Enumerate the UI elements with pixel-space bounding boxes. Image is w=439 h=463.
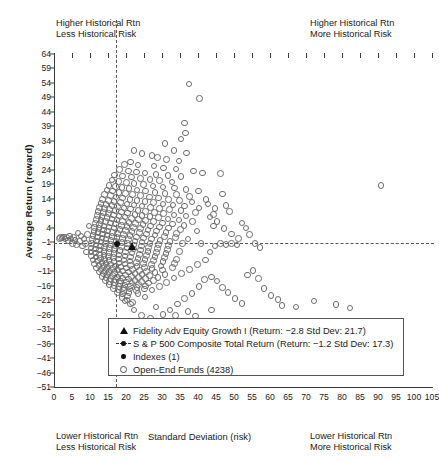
- y-axis-tick-label: −31: [36, 324, 51, 334]
- y-axis-tick-label: −16: [36, 281, 51, 291]
- fund-marker: [208, 307, 215, 314]
- fund-marker: [181, 120, 188, 127]
- fund-marker: [185, 236, 192, 243]
- x-axis-tick-label: 70: [301, 392, 311, 402]
- fidelity-fund-marker: [128, 242, 136, 250]
- y-axis-tick-mark: [50, 285, 55, 286]
- x-axis-tick-label: 20: [121, 392, 131, 402]
- fund-marker: [219, 191, 226, 198]
- y-axis-tick-mark: [50, 227, 55, 228]
- x-axis-tick-label: 5: [70, 392, 75, 402]
- x-axis-tick-label: 45: [211, 392, 221, 402]
- fund-marker: [156, 283, 163, 290]
- chart-legend: Fidelity Adv Equity Growth I (Return: −2…: [108, 318, 404, 376]
- fund-marker: [181, 295, 188, 302]
- triangle-marker-icon: [116, 327, 131, 334]
- x-axis-tick-mark: [162, 53, 163, 58]
- fund-marker: [186, 81, 193, 88]
- fund-marker: [378, 182, 385, 189]
- legend-item: S & P 500 Composite Total Return (Return…: [116, 337, 397, 350]
- fund-marker: [214, 278, 221, 285]
- fund-marker: [226, 208, 233, 215]
- x-axis-tick-mark: [306, 53, 307, 58]
- x-axis-tick-label: 80: [337, 392, 347, 402]
- x-axis-tick-mark: [126, 53, 127, 58]
- legend-item-label: S & P 500 Composite Total Return (Return…: [131, 339, 393, 349]
- quadrant-note-top-right: Higher Historical Rtn More Historical Ri…: [310, 18, 394, 41]
- y-axis-tick-label: −11: [37, 266, 51, 276]
- x-axis-tick-label: 25: [139, 392, 149, 402]
- y-axis-tick-mark: [50, 68, 55, 69]
- fund-marker: [221, 225, 228, 232]
- fund-marker: [165, 172, 172, 179]
- fund-marker: [160, 165, 167, 172]
- x-axis-tick-mark: [108, 53, 109, 58]
- fund-marker: [196, 283, 203, 290]
- x-axis-tick-mark: [396, 53, 397, 58]
- fund-marker: [171, 275, 178, 282]
- x-axis-tick-mark: [90, 53, 91, 58]
- x-axis-tick-label: 15: [103, 392, 113, 402]
- y-axis-tick-mark: [50, 256, 55, 257]
- x-axis-tick-label: 0: [52, 392, 57, 402]
- x-axis-tick-mark: [72, 53, 73, 58]
- fund-marker: [173, 166, 180, 173]
- x-axis-tick-label: 100: [407, 392, 421, 402]
- x-axis-tick-label: 60: [265, 392, 275, 402]
- x-axis-tick-mark: [144, 53, 145, 58]
- fund-marker: [196, 95, 203, 102]
- x-axis-line: [54, 387, 433, 388]
- x-axis-tick-label: 35: [175, 392, 185, 402]
- x-axis-tick-label: 85: [355, 392, 365, 402]
- fund-marker: [153, 304, 160, 311]
- fund-marker: [232, 295, 239, 302]
- quadrant-note-bottom-right: Lower Historical Rtn More Historical Ris…: [310, 431, 392, 454]
- fund-marker: [171, 147, 178, 154]
- x-axis-tick-mark: [360, 53, 361, 58]
- fund-marker: [293, 304, 300, 311]
- x-axis-title: Standard Deviation (risk): [148, 431, 288, 442]
- fund-marker: [160, 311, 167, 318]
- fund-marker: [183, 186, 190, 193]
- fund-marker: [201, 276, 208, 283]
- x-axis-tick-mark: [252, 53, 253, 58]
- fund-marker: [268, 292, 275, 299]
- fund-marker: [257, 244, 264, 251]
- x-axis-tick-label: 90: [373, 392, 383, 402]
- y-axis-tick-label: −41: [36, 353, 51, 363]
- x-axis-tick-mark: [342, 53, 343, 58]
- filled-dot-marker-icon: [116, 354, 131, 359]
- fund-marker: [234, 242, 241, 249]
- y-axis-tick-mark: [50, 97, 55, 98]
- fund-marker: [131, 180, 138, 187]
- fund-marker: [225, 289, 232, 296]
- fund-marker: [185, 308, 192, 315]
- y-axis-tick-label: −21: [36, 295, 51, 305]
- y-axis-tick-mark: [50, 358, 55, 359]
- fund-marker: [149, 287, 156, 294]
- fund-marker: [192, 209, 199, 216]
- fund-marker: [261, 285, 268, 292]
- fund-marker: [228, 231, 235, 238]
- fund-marker: [250, 267, 257, 274]
- fund-marker: [141, 286, 148, 293]
- y-axis-tick-mark: [50, 126, 55, 127]
- fund-marker: [189, 290, 196, 297]
- x-axis-tick-label: 95: [391, 392, 401, 402]
- quadrant-note-bottom-left: Lower Historical Rtn Less Historical Ris…: [56, 431, 138, 454]
- fund-marker: [176, 248, 183, 255]
- y-axis-tick-mark: [50, 329, 55, 330]
- fund-marker: [135, 290, 142, 297]
- x-axis-tick-label: 10: [85, 392, 95, 402]
- x-axis-tick-mark: [216, 53, 217, 58]
- fund-marker: [151, 163, 158, 170]
- fund-marker: [147, 176, 154, 183]
- y-axis-tick-mark: [50, 169, 55, 170]
- fund-marker: [190, 168, 197, 175]
- fund-marker: [163, 156, 170, 163]
- x-axis-tick-mark: [234, 53, 235, 58]
- fund-marker: [210, 223, 217, 230]
- fund-marker: [246, 231, 253, 238]
- legend-item: Open-End Funds (4238): [116, 363, 397, 376]
- fund-marker: [207, 249, 214, 256]
